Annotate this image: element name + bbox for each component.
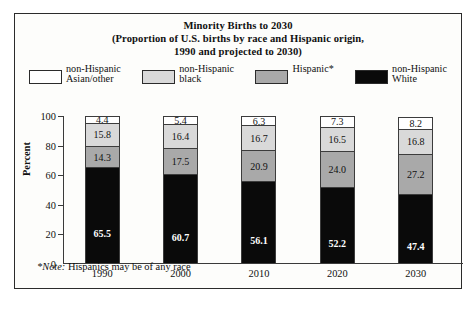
legend-item-hispanic: Hispanic* (255, 63, 333, 84)
y-axis-label: Percent (21, 142, 32, 176)
bar-column-2030: 8.2 16.8 27.2 47.4 2030 (394, 116, 438, 264)
stacked-bar-2020: 7.3 16.5 24.0 52.2 (320, 116, 355, 264)
segment-asian-other-2010: 6.3 (241, 116, 276, 125)
legend-item-white: non-Hispanic White (355, 63, 447, 85)
footnote-body: Hispanics may be of any race (65, 261, 190, 272)
legend-label-black: non-Hispanic black (179, 63, 234, 85)
segment-hispanic-2020: 24.0 (320, 151, 355, 187)
chart-footnote: *Note: Hispanics may be of any race (37, 261, 191, 272)
stacked-bar-1990: 4.4 15.8 14.3 65.5 (85, 116, 120, 264)
bar-column-1990: 4.4 15.8 14.3 65.5 1990 (80, 116, 124, 264)
axes: 100 80 60 40 20 0 4.4 15.8 14.3 65.5 (63, 116, 455, 264)
chart-title-line-3: 1990 and projected to 2030) (15, 45, 461, 58)
legend-label-white: non-Hispanic White (392, 63, 447, 85)
x-tick-label-2030: 2030 (405, 268, 426, 279)
legend-item-asian-other: non-Hispanic Asian/other (29, 63, 121, 85)
segment-white-1990: 65.5 (85, 167, 120, 264)
segment-black-2020: 16.5 (320, 127, 355, 151)
footnote-note-label: *Note: (37, 261, 65, 272)
legend-swatch-asian-other (29, 70, 62, 84)
chart-title-line-1: Minority Births to 2030 (15, 19, 461, 32)
bar-column-2020: 7.3 16.5 24.0 52.2 2020 (315, 116, 359, 264)
legend-item-black: non-Hispanic black (142, 63, 234, 85)
chart-legend: non-Hispanic Asian/other non-Hispanic bl… (15, 63, 461, 85)
legend-label-asian-other: non-Hispanic Asian/other (66, 63, 121, 85)
segment-black-2000: 16.4 (163, 124, 198, 148)
stacked-bar-2030: 8.2 16.8 27.2 47.4 (398, 117, 433, 264)
segment-black-2010: 16.7 (241, 125, 276, 150)
segment-black-2030: 16.8 (398, 129, 433, 154)
bar-column-2000: 5.4 16.4 17.5 60.7 2000 (159, 116, 203, 264)
segment-asian-other-2000: 5.4 (163, 116, 198, 124)
segment-white-2030: 47.4 (398, 194, 433, 264)
legend-label-hispanic: Hispanic* (292, 63, 333, 75)
chart-title-line-2: (Proportion of U.S. births by race and H… (15, 32, 461, 45)
bar-group: 4.4 15.8 14.3 65.5 1990 5.4 16.4 17.5 60… (63, 116, 455, 264)
stacked-bar-2000: 5.4 16.4 17.5 60.7 (163, 116, 198, 264)
legend-swatch-black (142, 70, 175, 84)
legend-swatch-hispanic (255, 70, 288, 84)
segment-white-2000: 60.7 (163, 174, 198, 264)
x-tick-label-2020: 2020 (327, 268, 348, 279)
stacked-bar-2010: 6.3 16.7 20.9 56.1 (241, 116, 276, 264)
segment-white-2020: 52.2 (320, 187, 355, 264)
chart-figure: Minority Births to 2030 (Proportion of U… (14, 13, 462, 289)
segment-asian-other-2020: 7.3 (320, 116, 355, 127)
legend-swatch-white (355, 70, 388, 84)
segment-asian-other-2030: 8.2 (398, 117, 433, 129)
segment-hispanic-2030: 27.2 (398, 154, 433, 194)
segment-hispanic-1990: 14.3 (85, 146, 120, 167)
segment-hispanic-2010: 20.9 (241, 150, 276, 181)
segment-white-2010: 56.1 (241, 181, 276, 264)
chart-title: Minority Births to 2030 (Proportion of U… (15, 19, 461, 59)
segment-asian-other-1990: 4.4 (85, 116, 120, 123)
x-tick-label-2010: 2010 (249, 268, 270, 279)
segment-black-1990: 15.8 (85, 123, 120, 146)
bar-column-2010: 6.3 16.7 20.9 56.1 2010 (237, 116, 281, 264)
segment-hispanic-2000: 17.5 (163, 148, 198, 174)
